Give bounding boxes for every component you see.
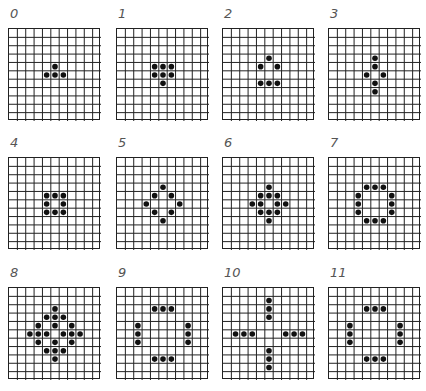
dot-grid [116,287,208,379]
panel-label: 4 [10,135,18,150]
pattern-panel-9: 9 [116,265,216,390]
dot [397,331,403,337]
dot [152,64,158,70]
dot-grid [8,287,100,379]
dot [275,201,281,207]
dot [266,184,272,190]
panel-label: 3 [330,6,338,21]
dot [389,210,395,216]
dot [152,210,158,216]
dot [35,331,41,337]
pattern-panel-11: 11 [328,265,426,390]
dot [52,340,58,346]
dot [266,218,272,224]
dot [355,210,361,216]
dot [185,340,191,346]
dot [258,81,264,87]
dot [52,348,58,354]
dot [258,201,264,207]
dot [258,210,264,216]
dot [364,218,370,224]
dot [241,331,247,337]
pattern-panel-6: 6 [222,135,322,260]
dot [135,323,141,329]
dot-grid [222,28,314,120]
dot [44,331,50,337]
dot-grid [8,157,100,249]
pattern-panel-5: 5 [116,135,216,260]
dot [177,201,183,207]
dot [69,323,75,329]
dot [347,331,353,337]
dot [160,72,166,78]
dot [372,218,378,224]
dot [52,193,58,199]
dot [275,64,281,70]
dot [275,210,281,216]
dot [372,356,378,362]
dot-grid [116,157,208,249]
dot [135,340,141,346]
dot [372,64,378,70]
dot [152,356,158,362]
dot [61,210,67,216]
panel-label: 5 [118,135,126,150]
dot [266,210,272,216]
dot [169,193,175,199]
dot [61,314,67,320]
dot [160,306,166,312]
dot [381,218,387,224]
dot-grid [328,287,420,379]
dot [249,331,255,337]
dot [69,340,75,346]
dot [185,323,191,329]
dot [52,356,58,362]
dot [52,72,58,78]
dot [372,306,378,312]
dot [397,340,403,346]
dot [372,55,378,61]
dot [266,314,272,320]
dot [283,201,289,207]
panel-label: 8 [10,265,18,280]
dot [275,193,281,199]
dot [389,201,395,207]
dot [355,193,361,199]
dot [389,193,395,199]
pattern-panel-2: 2 [222,6,322,131]
dot-grid [8,28,100,120]
dot [355,201,361,207]
dot-grid [328,28,420,120]
pattern-panel-8: 8 [8,265,108,390]
pattern-panel-10: 10 [222,265,322,390]
dot [372,89,378,95]
dot-grid [222,287,314,379]
dot [364,184,370,190]
pattern-panel-4: 4 [8,135,108,260]
dot [160,356,166,362]
dot [135,331,141,337]
dot [372,81,378,87]
dot [44,72,50,78]
dot [266,81,272,87]
dot [44,314,50,320]
dot [381,72,387,78]
dot [258,64,264,70]
dot [381,306,387,312]
dot [347,323,353,329]
dot-grid [116,28,208,120]
dot [372,184,378,190]
dot [160,64,166,70]
dot [364,72,370,78]
dot [169,356,175,362]
dot [52,306,58,312]
dot [169,306,175,312]
dot [44,210,50,216]
pattern-panel-0: 0 [8,6,108,131]
panel-label: 11 [330,265,347,280]
dot [160,184,166,190]
dot [397,323,403,329]
dot [364,356,370,362]
dot [61,201,67,207]
dot [152,306,158,312]
